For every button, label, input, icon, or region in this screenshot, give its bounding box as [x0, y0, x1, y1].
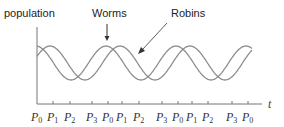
x-tick-label: P1 [46, 110, 58, 125]
worms-label: Worms [92, 7, 127, 19]
x-tick-label: P1 [115, 110, 127, 125]
x-ticks: P0P1P2P3P0P1P2P3P0P1P2P3P0 [30, 101, 253, 125]
x-tick-label: P2 [63, 110, 75, 125]
y-axis-label: population [4, 7, 55, 19]
x-tick-label: P0 [101, 110, 113, 125]
robins-label: Robins [171, 7, 206, 19]
x-tick-label: P0 [171, 110, 183, 125]
x-tick-label: P0 [30, 110, 42, 125]
x-tick-label: P0 [241, 110, 253, 125]
x-tick-label: P3 [225, 110, 237, 125]
robins-arrow [143, 23, 167, 49]
x-axis-label: t [268, 97, 272, 111]
x-tick-label: P3 [155, 110, 167, 125]
x-tick-label: P1 [185, 110, 197, 125]
x-tick-label: P2 [132, 110, 144, 125]
worms-arrowhead-icon [105, 36, 110, 41]
population-chart: population t Worms Robins P0P1P2P3P0P1P2… [0, 0, 284, 127]
x-tick-label: P3 [85, 110, 97, 125]
x-tick-label: P2 [201, 110, 213, 125]
